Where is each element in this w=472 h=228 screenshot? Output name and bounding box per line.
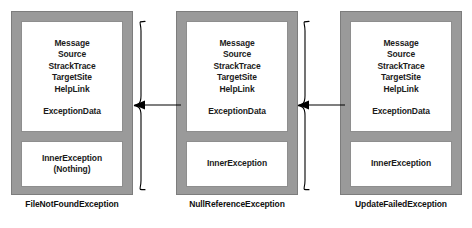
property-message: Message — [219, 38, 254, 50]
property-exceptiondata: ExceptionData — [43, 106, 101, 118]
property-message: Message — [383, 38, 418, 50]
inner-exception-panel: InnerException — [186, 141, 288, 187]
exception-properties-panel: Message Source StrackTrace TargetSite He… — [350, 21, 452, 132]
brace-shape — [134, 21, 145, 189]
inner-exception-label: InnerException — [42, 153, 102, 165]
property-helplink: HelpLink — [383, 84, 418, 96]
inner-exception-panel: InnerException — [350, 141, 452, 187]
property-message: Message — [54, 38, 89, 50]
property-helplink: HelpLink — [54, 84, 89, 96]
exception-chain-diagram: Message Source StrackTrace TargetSite He… — [0, 0, 472, 228]
property-stracktrace: StrackTrace — [48, 61, 95, 73]
arrow-head-icon — [298, 101, 309, 110]
property-targetsite: TargetSite — [381, 72, 421, 84]
property-targetsite: TargetSite — [217, 72, 257, 84]
inner-exception-panel: InnerException (Nothing) — [21, 141, 123, 187]
property-source: Source — [223, 49, 251, 61]
inner-exception-label: InnerException — [371, 158, 431, 170]
property-stracktrace: StrackTrace — [377, 61, 424, 73]
exception-properties-panel: Message Source StrackTrace TargetSite He… — [186, 21, 288, 132]
brace-shape — [298, 21, 309, 189]
connector-null-to-file — [132, 8, 182, 200]
property-targetsite: TargetSite — [52, 72, 92, 84]
connector-update-to-null — [296, 8, 346, 200]
arrow-head-icon — [134, 101, 145, 110]
exception-box-null-reference: Message Source StrackTrace TargetSite He… — [176, 11, 298, 195]
inner-exception-value: (Nothing) — [54, 164, 91, 176]
exception-properties-panel: Message Source StrackTrace TargetSite He… — [21, 21, 123, 132]
inner-exception-label: InnerException — [207, 158, 267, 170]
property-source: Source — [387, 49, 415, 61]
exception-box-update-failed: Message Source StrackTrace TargetSite He… — [340, 11, 462, 195]
exception-caption-update-failed: UpdateFailedException — [326, 199, 472, 209]
property-exceptiondata: ExceptionData — [208, 106, 266, 118]
property-source: Source — [58, 49, 86, 61]
exception-caption-null-reference: NullReferenceException — [162, 199, 312, 209]
exception-box-file-not-found: Message Source StrackTrace TargetSite He… — [11, 11, 133, 195]
property-exceptiondata: ExceptionData — [372, 106, 430, 118]
property-stracktrace: StrackTrace — [213, 61, 260, 73]
exception-caption-file-not-found: FileNotFoundException — [0, 199, 147, 209]
property-helplink: HelpLink — [219, 84, 254, 96]
